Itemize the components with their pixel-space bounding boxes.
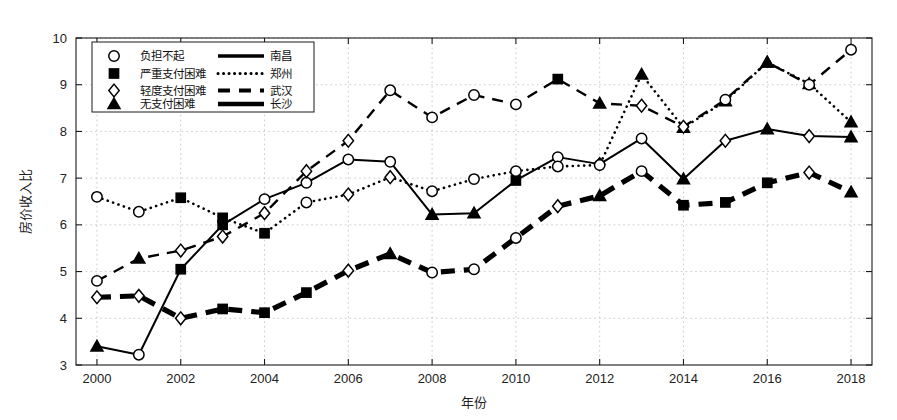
marker-triangle-filled bbox=[636, 68, 648, 79]
y-tick-label: 10 bbox=[53, 31, 67, 46]
marker-square-filled bbox=[109, 69, 118, 78]
marker-circle-open bbox=[469, 264, 479, 274]
marker-circle-open bbox=[134, 207, 144, 217]
x-tick-label: 2008 bbox=[418, 371, 447, 386]
series-长沙 bbox=[92, 166, 857, 325]
x-tick-label: 2010 bbox=[501, 371, 530, 386]
x-axis-title: 年份 bbox=[461, 395, 487, 410]
marker-diamond-open bbox=[804, 130, 814, 143]
marker-square-filled bbox=[721, 198, 730, 207]
legend-marker-label: 严重支付困难 bbox=[140, 67, 206, 81]
marker-square-filled bbox=[511, 176, 520, 185]
marker-circle-open bbox=[427, 186, 437, 196]
marker-circle-open bbox=[594, 160, 604, 170]
chart-figure: 3456789102000200220042006200820102012201… bbox=[0, 0, 897, 420]
x-tick-label: 2002 bbox=[166, 371, 195, 386]
y-tick-label: 6 bbox=[60, 217, 67, 232]
marker-circle-open bbox=[511, 99, 521, 109]
marker-circle-open bbox=[846, 44, 856, 54]
marker-diamond-open bbox=[176, 244, 186, 257]
marker-circle-open bbox=[469, 174, 479, 184]
legend-marker-label: 无支付困难 bbox=[140, 97, 195, 111]
marker-circle-open bbox=[385, 85, 395, 95]
marker-diamond-open bbox=[217, 230, 227, 243]
x-tick-label: 2018 bbox=[837, 371, 866, 386]
marker-square-filled bbox=[679, 201, 688, 210]
marker-triangle-filled bbox=[761, 123, 773, 134]
marker-triangle-filled bbox=[845, 186, 857, 197]
series-line-长沙 bbox=[97, 171, 851, 318]
legend-line-label: 长沙 bbox=[270, 97, 293, 111]
marker-circle-open bbox=[720, 94, 730, 104]
marker-triangle-filled bbox=[594, 97, 606, 108]
y-tick-label: 4 bbox=[60, 311, 67, 326]
legend-line-label: 武汉 bbox=[270, 84, 293, 98]
y-tick-label: 9 bbox=[60, 77, 67, 92]
marker-circle-open bbox=[134, 350, 144, 360]
marker-circle-open bbox=[259, 194, 269, 204]
legend-marker-label: 轻度支付困难 bbox=[140, 84, 206, 98]
marker-square-filled bbox=[260, 229, 269, 238]
marker-circle-open bbox=[636, 133, 646, 143]
x-tick-label: 2014 bbox=[669, 371, 698, 386]
marker-square-filled bbox=[176, 193, 185, 202]
marker-square-filled bbox=[553, 75, 562, 84]
plot-area: 3456789102000200220042006200820102012201… bbox=[0, 0, 897, 420]
x-tick-label: 2012 bbox=[585, 371, 614, 386]
marker-diamond-open bbox=[553, 200, 563, 213]
marker-square-filled bbox=[763, 178, 772, 187]
legend-line-label: 郑州 bbox=[270, 67, 292, 81]
x-tick-label: 2016 bbox=[753, 371, 782, 386]
marker-square-filled bbox=[218, 304, 227, 313]
marker-triangle-filled bbox=[133, 252, 145, 263]
marker-circle-open bbox=[385, 157, 395, 167]
marker-diamond-open bbox=[92, 291, 102, 304]
legend-marker-label: 负担不起 bbox=[140, 49, 185, 63]
marker-triangle-filled bbox=[761, 56, 773, 67]
x-tick-label: 2004 bbox=[250, 371, 279, 386]
marker-square-filled bbox=[218, 213, 227, 222]
marker-circle-open bbox=[553, 161, 563, 171]
y-tick-label: 7 bbox=[60, 171, 67, 186]
marker-circle-open bbox=[427, 112, 437, 122]
marker-diamond-open bbox=[385, 171, 395, 184]
chart-svg: 3456789102000200220042006200820102012201… bbox=[0, 0, 897, 420]
marker-circle-open bbox=[511, 233, 521, 243]
marker-square-filled bbox=[302, 288, 311, 297]
marker-circle-open bbox=[109, 51, 119, 61]
marker-circle-open bbox=[301, 178, 311, 188]
y-axis-title: 房价收入比 bbox=[18, 169, 33, 234]
legend: 负担不起严重支付困难轻度支付困难无支付困难南昌郑州武汉长沙 bbox=[92, 42, 314, 112]
marker-diamond-open bbox=[259, 207, 269, 220]
marker-diamond-open bbox=[343, 134, 353, 147]
marker-circle-open bbox=[469, 90, 479, 100]
marker-square-filled bbox=[176, 265, 185, 274]
y-tick-label: 3 bbox=[60, 358, 67, 373]
marker-diamond-open bbox=[343, 188, 353, 201]
marker-circle-open bbox=[427, 267, 437, 277]
marker-circle-open bbox=[636, 166, 646, 176]
marker-square-filled bbox=[260, 308, 269, 317]
y-tick-label: 5 bbox=[60, 264, 67, 279]
marker-circle-open bbox=[343, 154, 353, 164]
y-tick-label: 8 bbox=[60, 124, 67, 139]
marker-circle-open bbox=[92, 192, 102, 202]
marker-diamond-open bbox=[636, 99, 646, 112]
marker-circle-open bbox=[92, 276, 102, 286]
marker-circle-open bbox=[804, 80, 814, 90]
marker-circle-open bbox=[301, 197, 311, 207]
x-tick-label: 2000 bbox=[82, 371, 111, 386]
marker-diamond-open bbox=[176, 312, 186, 325]
x-tick-label: 2006 bbox=[334, 371, 363, 386]
legend-line-label: 南昌 bbox=[270, 49, 292, 63]
marker-triangle-filled bbox=[91, 340, 103, 351]
marker-circle-open bbox=[511, 166, 521, 176]
